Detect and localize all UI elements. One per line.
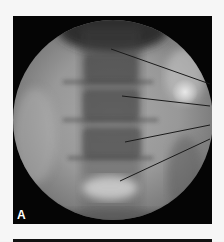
bright-spot <box>172 79 198 105</box>
panel-label: A <box>17 209 26 221</box>
fluoroscopy-panel: A <box>13 16 212 224</box>
sacrum <box>82 176 138 200</box>
xray-image <box>13 16 212 224</box>
